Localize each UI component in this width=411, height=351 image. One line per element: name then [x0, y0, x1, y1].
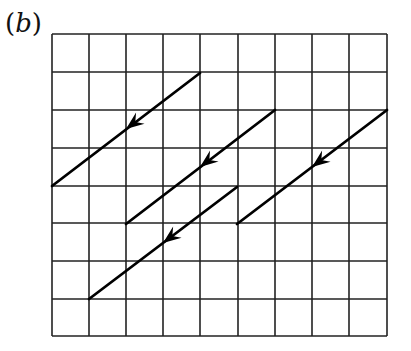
arrowhead-icon: [163, 227, 182, 243]
arrowhead-icon: [200, 151, 219, 167]
arrowhead-icon: [126, 113, 145, 129]
grid-diagram: [0, 0, 411, 351]
arrowhead-icon: [312, 151, 331, 167]
